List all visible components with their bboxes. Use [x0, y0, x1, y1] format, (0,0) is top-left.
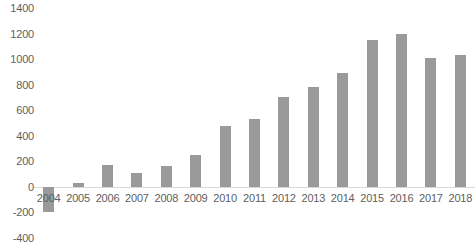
- bar: [190, 155, 201, 187]
- x-axis-tick-label: 2004: [37, 192, 61, 204]
- x-axis-tick-label: 2009: [184, 192, 208, 204]
- y-axis-tick-text: 0: [28, 181, 34, 193]
- y-axis-tick-text: 400: [16, 130, 34, 142]
- y-axis-tick-label: 0: [0, 181, 34, 193]
- y-axis-tick-label: 1000: [0, 53, 34, 65]
- plot-area: [34, 0, 475, 242]
- bar: [102, 165, 113, 187]
- bar: [249, 119, 260, 187]
- y-axis-tick-text: 1400: [10, 2, 34, 14]
- x-axis-tick-label: 2006: [96, 192, 120, 204]
- bar: [220, 126, 231, 187]
- x-axis-tick-label: 2008: [154, 192, 178, 204]
- y-axis-tick-text: 1200: [10, 28, 34, 40]
- y-axis-tick-label: 1200: [0, 28, 34, 40]
- bar: [396, 34, 407, 187]
- y-axis-tick-label: 1400: [0, 2, 34, 14]
- x-axis-tick-label: 2018: [448, 192, 472, 204]
- x-axis-tick-label: 2007: [125, 192, 149, 204]
- y-axis-tick-label: 600: [0, 104, 34, 116]
- x-axis-tick-label: 2014: [331, 192, 355, 204]
- x-axis-tick-label: 2005: [66, 192, 90, 204]
- y-axis-tick-text: 800: [16, 79, 34, 91]
- y-axis-tick-text: -200: [13, 206, 34, 218]
- y-axis-tick-text: -400: [13, 232, 34, 242]
- y-axis-tick-text: 1000: [10, 53, 34, 65]
- bar: [73, 183, 84, 187]
- x-axis-tick-label: 2010: [213, 192, 237, 204]
- x-axis-tick-label: 2015: [360, 192, 384, 204]
- x-axis-tick-label: 2013: [301, 192, 325, 204]
- y-axis-tick-label: -400: [0, 232, 34, 242]
- y-axis-tick-label: 400: [0, 130, 34, 142]
- bar: [425, 58, 436, 187]
- bar-chart: 1400120010008006004002000-200-4002004200…: [0, 0, 475, 242]
- y-axis-tick-label: 200: [0, 155, 34, 167]
- bar: [131, 173, 142, 187]
- x-axis-tick-label: 2011: [243, 192, 266, 204]
- y-axis-tick-text: 600: [16, 104, 34, 116]
- bar: [161, 166, 172, 186]
- y-axis-tick-label: 800: [0, 79, 34, 91]
- bar: [278, 97, 289, 186]
- bar: [337, 73, 348, 187]
- zero-baseline: [34, 187, 475, 188]
- y-axis-tick-text: 200: [16, 155, 34, 167]
- bar: [455, 55, 466, 187]
- bar: [308, 87, 319, 187]
- x-axis-tick-label: 2012: [272, 192, 296, 204]
- x-axis-tick-label: 2017: [419, 192, 443, 204]
- x-axis-tick-label: 2016: [390, 192, 414, 204]
- bar: [367, 40, 378, 187]
- y-axis-tick-label: -200: [0, 206, 34, 218]
